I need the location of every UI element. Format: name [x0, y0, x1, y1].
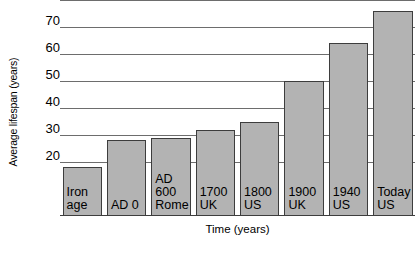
- y-axis-title-text: Average lifespan (years): [7, 58, 19, 167]
- bar-slot: Iron age: [60, 0, 104, 216]
- y-axis-title: Average lifespan (years): [0, 0, 26, 224]
- bar-slot: 1900 UK: [282, 0, 326, 216]
- bar: 1900 UK: [284, 81, 323, 216]
- bar-label: AD 0: [111, 199, 144, 212]
- y-axis-tick-label: 60: [46, 41, 60, 54]
- y-axis-tick-label: 40: [46, 95, 60, 108]
- y-axis-tick-label: 20: [46, 149, 60, 162]
- bar-label: AD 600 Rome: [155, 173, 188, 212]
- bar: AD 600 Rome: [151, 138, 190, 216]
- bar-label: 1900 UK: [288, 186, 321, 212]
- x-axis-line: [60, 215, 415, 216]
- bar-label: Today US: [377, 186, 410, 212]
- y-axis-tick-labels: 20304050607080: [26, 0, 62, 216]
- y-axis-tick-label: 70: [46, 14, 60, 27]
- bar-slot: Today US: [371, 0, 415, 216]
- bar: AD 0: [107, 140, 146, 216]
- bar-label: Iron age: [67, 186, 100, 212]
- bar: 1700 UK: [196, 130, 235, 216]
- bar-slot: 1940 US: [326, 0, 370, 216]
- bar: 1940 US: [329, 43, 368, 216]
- bar-label: 1700 UK: [200, 186, 233, 212]
- bar-slot: AD 600 Rome: [149, 0, 193, 216]
- bar-label: 1800 US: [244, 186, 277, 212]
- bar-slot: 1800 US: [238, 0, 282, 216]
- bar-series: Iron ageAD 0AD 600 Rome1700 UK1800 US190…: [60, 0, 415, 216]
- bar: Iron age: [63, 167, 102, 216]
- bar-slot: 1700 UK: [193, 0, 237, 216]
- bar: 1800 US: [240, 122, 279, 217]
- y-axis-tick-label: 30: [46, 122, 60, 135]
- bar-slot: AD 0: [104, 0, 148, 216]
- plot-area: Iron ageAD 0AD 600 Rome1700 UK1800 US190…: [60, 0, 415, 216]
- bar-chart: Average lifespan (years) 20304050607080 …: [0, 0, 419, 254]
- bar: Today US: [373, 11, 412, 216]
- x-axis-title: Time (years): [60, 223, 415, 235]
- bar-label: 1940 US: [333, 186, 366, 212]
- y-axis-tick-label: 50: [46, 68, 60, 81]
